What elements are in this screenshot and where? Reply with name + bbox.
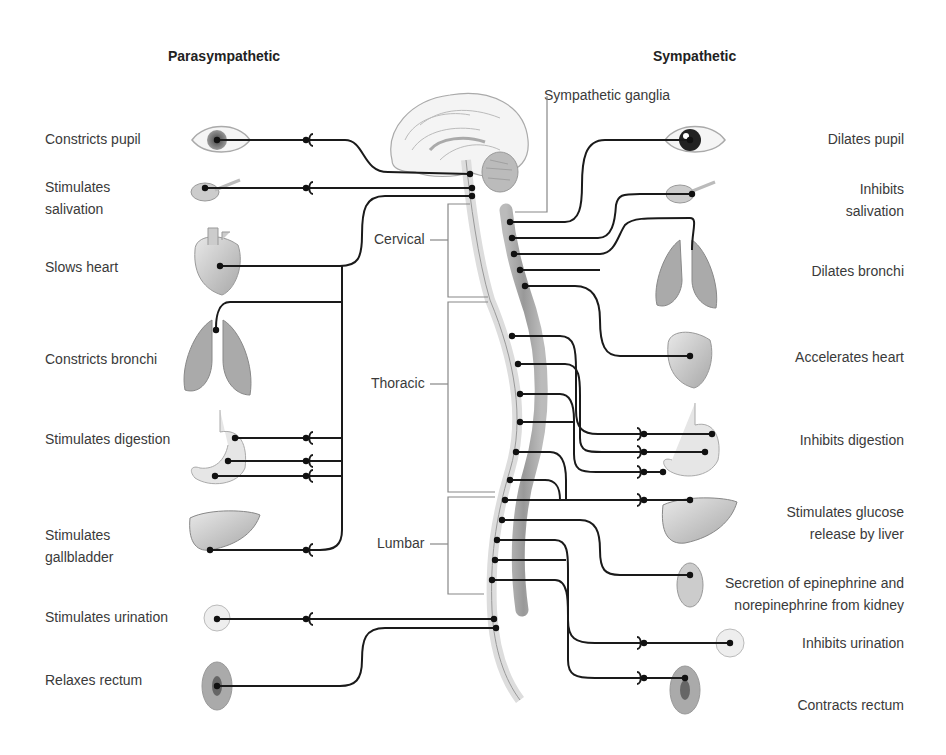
brain-icon (391, 93, 528, 192)
nerve-endpoint (494, 537, 500, 543)
synapse-dot (303, 185, 309, 191)
parasympathetic-pathways (205, 140, 496, 686)
nerve-endpoint (207, 547, 213, 553)
rectum-icon (670, 666, 700, 714)
nerve-endpoint (517, 419, 523, 425)
nerve-endpoint (502, 497, 508, 503)
nerve-endpoint (517, 391, 523, 397)
kidney-icon (677, 563, 703, 607)
synapse-dot (641, 497, 647, 503)
synapse-dot (303, 458, 309, 464)
heart-icon (668, 332, 712, 388)
synapse-dot (641, 431, 647, 437)
synapse-dot (303, 473, 309, 479)
nerve-endpoint (217, 263, 223, 269)
synapse-dot (303, 616, 309, 622)
nerve-endpoint (212, 473, 218, 479)
synapse-dot (641, 675, 647, 681)
nerve-endpoint (709, 431, 715, 437)
lungs-icon (656, 240, 717, 308)
nerve-endpoint (492, 557, 498, 563)
nerve-endpoint (202, 185, 208, 191)
nerve-endpoint (491, 616, 497, 622)
nerve-endpoint (687, 137, 693, 143)
nerve-endpoint (513, 449, 519, 455)
synapse-dot (641, 469, 647, 475)
nerve-endpoint (467, 171, 473, 177)
nerve-endpoint (687, 497, 693, 503)
nerve-endpoint (660, 469, 666, 475)
nerve-endpoint (509, 333, 515, 339)
nerve-endpoint (493, 625, 499, 631)
nerve-endpoint (214, 683, 220, 689)
nerve-endpoint (232, 435, 238, 441)
nerve-endpoint (489, 577, 495, 583)
nerve-endpoint (213, 327, 219, 333)
synapse-dot (303, 435, 309, 441)
nerve-endpoint (469, 193, 475, 199)
synapse-dot (303, 137, 309, 143)
nerve-endpoint (511, 251, 517, 257)
nerve-endpoint (507, 219, 513, 225)
nerve-endpoint (522, 283, 528, 289)
stomach-icon (191, 410, 245, 484)
nerve-endpoint (214, 137, 220, 143)
nerve-endpoint (517, 267, 523, 273)
liver-icon (190, 511, 260, 550)
salivary-gland-icon (191, 180, 240, 201)
synapse-dot (641, 449, 647, 455)
nerve-endpoint (687, 353, 693, 359)
stomach-icon (664, 403, 719, 476)
nerve-endpoint (689, 191, 695, 197)
nerve-endpoint (225, 458, 231, 464)
liver-icon (662, 498, 737, 543)
nervous-system-diagram (0, 0, 946, 755)
nerve-endpoint (702, 449, 708, 455)
nerve-endpoint (682, 675, 688, 681)
nerve-endpoint (515, 361, 521, 367)
heart-icon (195, 228, 241, 295)
nerve-endpoint (469, 185, 475, 191)
nerve-endpoint (499, 517, 505, 523)
nerve-endpoint (687, 572, 693, 578)
synapse-dot (641, 640, 647, 646)
nerve-endpoint (507, 477, 513, 483)
nerve-endpoint (727, 640, 733, 646)
nerve-endpoint (214, 616, 220, 622)
nerve-endpoint (509, 235, 515, 241)
synapse-dot (303, 547, 309, 553)
nerve-endpoint-dots (202, 137, 733, 689)
